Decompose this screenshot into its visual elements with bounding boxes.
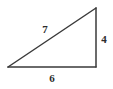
hypotenuse-line <box>8 8 96 67</box>
triangle-drawing <box>0 0 113 89</box>
vertical-leg-label: 4 <box>101 34 107 45</box>
triangle-figure: 7 4 6 <box>0 0 113 89</box>
base-leg-label: 6 <box>49 73 55 84</box>
hypotenuse-label: 7 <box>42 24 48 35</box>
